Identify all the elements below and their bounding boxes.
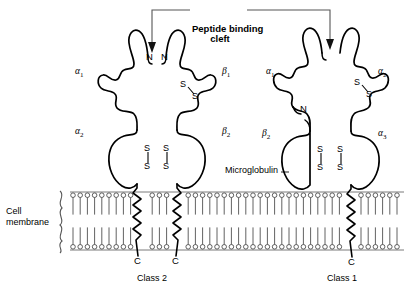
class2-c-terminus-alpha: C: [134, 256, 141, 266]
class1-beta2-sub: 2: [267, 133, 271, 141]
class1-beta2-disulfide-s1: S: [317, 145, 323, 155]
diagram-canvas: Peptide binding cleft Cell membrane Micr…: [0, 0, 409, 294]
class2-name-label: Class 2: [137, 274, 167, 284]
class1-alpha2-sub: 2: [383, 71, 387, 79]
peptide-cleft-arrow-right: [326, 26, 334, 50]
class1-alpha2-label: α2: [378, 66, 387, 79]
class2-n-terminus-beta: N: [161, 52, 168, 62]
class1-beta2-microglobulin: [282, 131, 310, 189]
class2-beta-chain: [166, 30, 216, 256]
class1-alpha3-disulfide-s2: S: [337, 163, 343, 173]
cleft-label-line2: cleft: [192, 34, 248, 44]
peptide-cleft-bracket-left: [152, 10, 190, 30]
class2-disulfide-bonds: [148, 87, 194, 163]
class1-alpha3-label: α3: [378, 128, 387, 141]
class1-alpha2-disulfide-s2: S: [366, 90, 372, 100]
class1-beta2-disulfide-s2: S: [317, 163, 323, 173]
class2-beta2-disulfide-s2: S: [163, 162, 169, 172]
class1-name-label: Class 1: [327, 274, 357, 284]
class2-beta1-label: β1: [222, 66, 230, 79]
class2-alpha-chain: [98, 30, 148, 256]
class1-beta2-label: β2: [262, 128, 270, 141]
class2-beta1-disulfide-s1: S: [180, 80, 186, 90]
class1-disulfide-bonds: [321, 85, 368, 164]
class2-alpha2-label: α2: [75, 126, 84, 139]
class2-n-terminus-alpha: N: [146, 52, 153, 62]
membrane-label-line1: Cell: [6, 206, 58, 217]
peptide-cleft-arrow-left: [148, 30, 156, 53]
class2-alpha2-sub: 2: [80, 131, 84, 139]
class2-alpha1-label: α1: [75, 66, 84, 79]
class1-alpha3-disulfide-s1: S: [337, 145, 343, 155]
cell-membrane-brace: [60, 191, 62, 253]
class2-beta2-label: β2: [222, 126, 230, 139]
membrane-label-line2: membrane: [6, 217, 58, 228]
microglobulin-label: Microglobulin: [225, 166, 278, 176]
class1-alpha3-sub: 3: [383, 133, 387, 141]
class2-beta1-disulfide-s2: S: [192, 92, 198, 102]
peptide-binding-cleft-label: Peptide binding cleft: [192, 24, 248, 45]
class2-beta2-disulfide-s1: S: [163, 144, 169, 154]
cell-membrane-label: Cell membrane: [6, 206, 58, 229]
class2-beta1-sub: 1: [227, 71, 231, 79]
class1-n-terminus: N: [300, 104, 307, 114]
class1-alpha2-disulfide-s1: S: [354, 78, 360, 88]
class1-c-terminus: C: [348, 257, 355, 267]
class2-alpha1-sub: 1: [80, 71, 84, 79]
class1-alpha1-sub: 1: [271, 71, 275, 79]
class1-alpha1-label: α1: [266, 66, 275, 79]
class1-heavy-chain: [274, 28, 389, 257]
class2-beta2-sub: 2: [227, 131, 231, 139]
class2-alpha2-disulfide-s2: S: [144, 162, 150, 172]
class2-alpha2-disulfide-s1: S: [144, 144, 150, 154]
class2-c-terminus-beta: C: [172, 256, 179, 266]
